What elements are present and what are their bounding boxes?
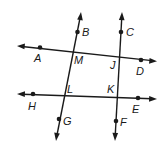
label-b: B (82, 26, 89, 38)
arrowhead-up-icon (119, 12, 125, 20)
arrowhead-down-icon (54, 133, 60, 142)
geometry-diagram: A B C D E F G H M J L K (0, 0, 164, 148)
point-g-dot (57, 117, 62, 122)
label-k: K (107, 83, 115, 95)
line-he (17, 91, 157, 101)
label-g: G (63, 115, 72, 127)
label-m: M (74, 54, 84, 66)
arrowhead-right-icon (149, 96, 157, 102)
label-f: F (120, 116, 128, 128)
point-h-dot (31, 92, 36, 97)
label-a: A (33, 52, 41, 64)
point-d-dot (139, 58, 144, 63)
label-c: C (126, 26, 134, 38)
label-l: L (67, 83, 73, 95)
label-j: J (109, 59, 116, 71)
point-c-dot (119, 30, 124, 35)
arrowhead-left-icon (17, 91, 25, 97)
point-b-dot (75, 30, 80, 35)
label-d: D (136, 65, 144, 77)
point-f-dot (114, 119, 119, 124)
label-h: H (28, 100, 36, 112)
label-e: E (132, 103, 140, 115)
point-e-dot (136, 96, 141, 101)
arrowhead-up-icon (77, 12, 83, 21)
point-a-dot (38, 45, 43, 50)
arrowhead-right-icon (149, 58, 157, 64)
arrowhead-left-icon (17, 44, 25, 50)
arrowhead-down-icon (112, 133, 118, 141)
